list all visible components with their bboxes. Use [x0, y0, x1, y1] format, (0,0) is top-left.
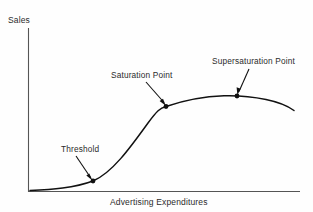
supersaturation-point-marker — [235, 94, 240, 99]
supersaturation-annotation-label: Supersaturation Point — [212, 56, 295, 66]
x-axis-label: Advertising Expenditures — [110, 197, 208, 207]
saturation-arrow-head — [160, 99, 166, 106]
threshold-annotation-label: Threshold — [61, 144, 99, 154]
saturation-arrow-shaft — [146, 82, 164, 103]
supersaturation-arrow-shaft — [239, 69, 249, 92]
sales-response-curve-figure: Sales Advertising Expenditures Threshold… — [0, 0, 313, 212]
saturation-point-marker — [164, 104, 169, 109]
saturation-annotation-label: Saturation Point — [111, 70, 172, 80]
chart-canvas — [0, 0, 313, 212]
y-axis-label: Sales — [8, 15, 30, 25]
threshold-arrow-head — [86, 174, 92, 181]
